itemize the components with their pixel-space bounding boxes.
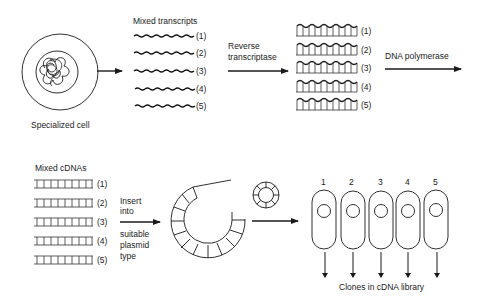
transcript-label-5: (5) [196, 101, 206, 111]
cdnas-title: Mixed cDNAs [35, 163, 86, 173]
dna-polymerase-label: DNA polymerase [385, 51, 449, 61]
cdna-label-3: (3) [97, 217, 107, 227]
insert-label-4: plasmid [120, 240, 149, 250]
clone-number-3: 3 [378, 177, 383, 187]
transcript-label-4: (4) [196, 84, 206, 94]
reverse-transcriptase-label-2: transcriptase [228, 52, 277, 62]
transcripts-title: Mixed transcripts [133, 16, 197, 26]
transcript-label-3: (3) [196, 66, 206, 76]
clone-number-1: 1 [321, 177, 326, 187]
specialized-cell-icon [22, 34, 98, 110]
cdna-label-5: (5) [97, 255, 107, 265]
rna-dna-hybrids [296, 25, 357, 111]
clone-number-2: 2 [349, 177, 354, 187]
cdna-label-4: (4) [97, 236, 107, 246]
clone-number-4: 4 [405, 177, 410, 187]
insert-label-5: type [120, 251, 136, 261]
recombinant-plasmid-icon [253, 182, 279, 208]
bacterial-clones [312, 190, 448, 249]
hybrid-label-2: (2) [361, 45, 371, 55]
hybrid-label-5: (5) [361, 100, 371, 110]
mixed-cdnas [34, 180, 93, 264]
cell-label: Specialized cell [31, 120, 90, 130]
hybrid-label-1: (1) [361, 26, 371, 36]
insert-label-2: into [120, 206, 134, 216]
insert-label-1: Insert [120, 196, 141, 206]
insert-label-3: suitable [120, 229, 149, 239]
cdna-label-2: (2) [97, 198, 107, 208]
hybrid-label-3: (3) [361, 63, 371, 73]
mixed-transcripts [134, 35, 195, 107]
cdna-label-1: (1) [97, 179, 107, 189]
clone-number-5: 5 [433, 177, 438, 187]
transcript-label-2: (2) [196, 48, 206, 58]
clones-label: Clones in cDNA library [339, 282, 424, 292]
transcript-label-1: (1) [196, 31, 206, 41]
open-plasmid-icon [171, 180, 245, 258]
clone-arrows [325, 252, 437, 277]
hybrid-label-4: (4) [361, 82, 371, 92]
reverse-transcriptase-label-1: Reverse [228, 41, 260, 51]
